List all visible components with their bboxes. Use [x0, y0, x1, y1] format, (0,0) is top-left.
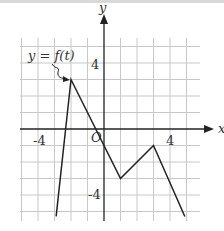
y-tick-neg4: -4 — [88, 187, 101, 202]
y-axis-arrow-icon — [100, 14, 108, 24]
x-tick-4: 4 — [166, 133, 174, 148]
x-tick-neg4: -4 — [33, 133, 46, 148]
x-axis-label: x — [218, 121, 224, 136]
function-label: y = f(t) — [27, 48, 75, 63]
x-axis-arrow-icon — [204, 125, 214, 133]
y-tick-4: 4 — [91, 57, 99, 72]
y-axis-label: y — [98, 0, 107, 15]
graph: x y O -4 4 4 -4 y = f(t) — [0, 0, 224, 231]
